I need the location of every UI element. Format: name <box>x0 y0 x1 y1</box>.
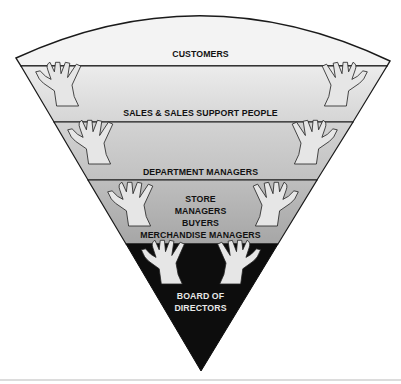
label-board-line: DIRECTORS <box>16 302 385 314</box>
label-board-line: BOARD OF <box>16 290 385 302</box>
bottom-divider <box>0 379 401 381</box>
label-store-line: STORE <box>16 193 385 205</box>
label-store-group: STORE MANAGERS BUYERS MERCHANDISE MANAGE… <box>0 193 401 241</box>
label-store-line: MANAGERS <box>16 205 385 217</box>
label-store-line: BUYERS <box>16 217 385 229</box>
label-sales: SALES & SALES SUPPORT PEOPLE <box>16 107 385 119</box>
label-customers: CUSTOMERS <box>16 48 385 60</box>
label-department: DEPARTMENT MANAGERS <box>16 166 385 178</box>
label-store-line: MERCHANDISE MANAGERS <box>16 229 385 241</box>
label-board-group: BOARD OF DIRECTORS <box>0 290 401 314</box>
